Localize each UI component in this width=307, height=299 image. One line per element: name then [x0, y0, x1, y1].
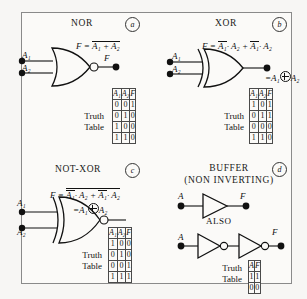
inverter-2-body — [239, 234, 261, 258]
figure-page: NOR a F = A₁ + A₂ A₁ A₂ F Truth — [0, 0, 307, 299]
buffer-input-terminal — [178, 203, 185, 210]
panel-buffer-circuit — [0, 0, 307, 299]
table-header-row: A F — [249, 261, 261, 272]
buffer-gate-body — [203, 194, 227, 218]
panel-buffer-truth-label-line1: Truth — [222, 263, 242, 273]
table-row: 1 1 — [249, 272, 261, 283]
inverter-1-bubble — [220, 242, 227, 249]
panel-buffer-truth-table: A F 1 1 0 0 — [248, 260, 261, 294]
cell: 1 — [254, 272, 260, 283]
col-header-a: A — [249, 261, 255, 272]
inverter-chain-output-terminal — [278, 243, 285, 250]
inverter-1-body — [198, 234, 220, 258]
table-row: 0 0 — [249, 283, 261, 294]
inverter-2-bubble — [261, 242, 268, 249]
panel-buffer-truth-label-line2: Table — [222, 274, 242, 284]
panel-buffer-truth-label: Truth Table — [196, 263, 242, 284]
inverter-chain-input-terminal — [178, 243, 185, 250]
col-header-f: F — [254, 261, 260, 272]
cell: 0 — [254, 283, 260, 294]
buffer-output-terminal — [243, 203, 250, 210]
